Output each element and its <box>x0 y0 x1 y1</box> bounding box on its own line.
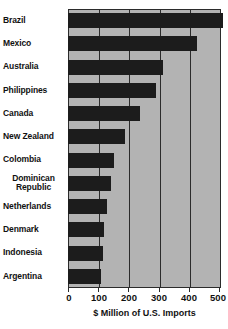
category-label-row: Australia <box>0 56 66 79</box>
category-label-row: Brazil <box>0 9 66 32</box>
category-label-row: Denmark <box>0 218 66 241</box>
category-label-indonesia: Indonesia <box>3 248 42 258</box>
category-label-row: Indonesia <box>0 242 66 265</box>
category-label-colombia: Colombia <box>3 155 41 165</box>
bar-new-zealand <box>68 129 125 144</box>
bar-row <box>68 79 221 102</box>
bar-mexico <box>68 36 197 51</box>
category-label-mexico: Mexico <box>3 39 31 49</box>
bar-row <box>68 125 221 148</box>
x-axis-title: $ Million of U.S. Imports <box>68 308 221 318</box>
category-label-row: Dominican Republic <box>0 172 66 195</box>
category-label-row: Canada <box>0 102 66 125</box>
bar-argentina <box>68 269 101 284</box>
x-ticklabel-500: 500 <box>210 292 226 303</box>
x-ticklabel-100: 100 <box>91 292 107 303</box>
category-label-brazil: Brazil <box>3 16 26 26</box>
category-label-canada: Canada <box>3 109 33 119</box>
bar-row <box>68 56 221 79</box>
category-label-new-zealand: New Zealand <box>3 132 54 142</box>
category-label-row: Argentina <box>0 265 66 288</box>
category-label-dominican-republic: Dominican Republic <box>3 174 66 193</box>
bar-row <box>68 149 221 172</box>
bar-row <box>68 9 221 32</box>
category-label-row: Colombia <box>0 149 66 172</box>
category-label-row: Mexico <box>0 32 66 55</box>
bar-dominican-republic <box>68 176 111 191</box>
bar-brazil <box>68 13 223 28</box>
category-label-argentina: Argentina <box>3 272 42 282</box>
bar-australia <box>68 60 163 75</box>
bar-series <box>68 9 221 288</box>
category-label-row: New Zealand <box>0 125 66 148</box>
category-axis-labels: Brazil Mexico Australia Philippines Cana… <box>0 9 66 288</box>
category-label-row: Netherlands <box>0 195 66 218</box>
category-label-australia: Australia <box>3 62 38 72</box>
bar-row <box>68 218 221 241</box>
x-ticklabel-200: 200 <box>121 292 137 303</box>
bar-denmark <box>68 222 104 237</box>
bar-netherlands <box>68 199 107 214</box>
category-label-denmark: Denmark <box>3 225 39 235</box>
bar-row <box>68 102 221 125</box>
bar-row <box>68 242 221 265</box>
category-label-netherlands: Netherlands <box>3 202 51 212</box>
bar-chart-figure: Brazil Mexico Australia Philippines Cana… <box>0 0 228 329</box>
x-ticklabel-0: 0 <box>66 292 71 303</box>
category-label-row: Philippines <box>0 79 66 102</box>
bar-canada <box>68 106 140 121</box>
bar-row <box>68 265 221 288</box>
bar-row <box>68 195 221 218</box>
x-ticklabel-400: 400 <box>181 292 197 303</box>
x-axis-tick-labels: 0 100 200 300 400 500 <box>0 292 228 306</box>
bar-indonesia <box>68 246 103 261</box>
category-label-philippines: Philippines <box>3 86 47 96</box>
x-ticklabel-300: 300 <box>151 292 167 303</box>
bar-colombia <box>68 153 114 168</box>
bar-row <box>68 32 221 55</box>
bar-philippines <box>68 83 156 98</box>
bar-row <box>68 172 221 195</box>
